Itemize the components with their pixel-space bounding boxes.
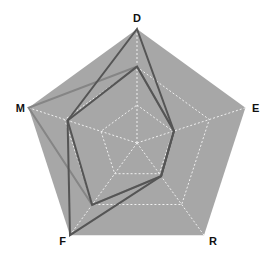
axis-label-m: M [16,102,25,114]
axis-label-f: F [59,235,66,247]
axis-label-r: R [209,235,217,247]
radar-background [29,29,246,235]
axis-label-e: E [252,102,259,114]
radar-chart: D E R F M [0,0,275,258]
axis-label-d: D [133,12,141,24]
